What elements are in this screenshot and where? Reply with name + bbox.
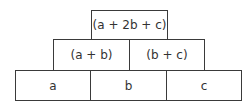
brick-middle-right: (b + c): [129, 39, 205, 71]
brick-bottom-middle: b: [90, 70, 167, 101]
brick-bottom-right: c: [166, 70, 242, 101]
brick-middle-left: (a + b): [53, 39, 130, 71]
brick-bottom-left: a: [15, 70, 91, 101]
brick-top: (a + 2b + c): [91, 10, 168, 40]
